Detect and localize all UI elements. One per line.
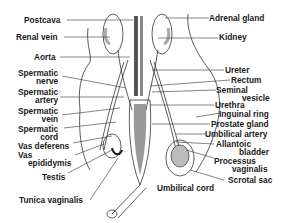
label-spermatic-artery: Spermatic artery <box>18 88 58 104</box>
label-line: epididymis <box>18 159 71 167</box>
label-renal-vein: Renal vein <box>16 33 58 41</box>
label-line: cord <box>18 133 58 141</box>
label-vas-epididymis: Vas epididymis <box>18 151 71 167</box>
label-vas-deferens: Vas deferens <box>18 142 69 150</box>
label-line: vaginalis <box>214 165 268 173</box>
urogenital-diagram: Postcava Renal vein Aorta Spermatic nerv… <box>0 0 286 223</box>
label-processus-vaginalis: Processus vaginalis <box>214 157 268 173</box>
label-adrenal-gland: Adrenal gland <box>209 14 264 22</box>
label-line: bladder <box>216 148 269 156</box>
label-urethra: Urethra <box>215 101 245 109</box>
label-testis: Testis <box>42 173 65 181</box>
label-spermatic-nerve: Spermatic nerve <box>18 69 58 85</box>
label-prostate-gland: Prostate gland <box>211 120 269 128</box>
label-postcava: Postcava <box>24 16 60 24</box>
label-allantoic-bladder: Allantoic bladder <box>216 140 269 156</box>
label-line: artery <box>18 96 58 104</box>
label-ureter: Ureter <box>225 66 249 74</box>
label-umbilical-cord: Umbilical cord <box>157 184 214 192</box>
label-spermatic-vein: Spermatic vein <box>18 107 58 123</box>
label-line: nerve <box>18 77 58 85</box>
label-inguinal-ring: Inguinal ring <box>219 110 269 118</box>
label-umbilical-artery: Umbilical artery <box>205 130 267 138</box>
label-line: vein <box>18 115 58 123</box>
label-kidney: Kidney <box>219 33 247 41</box>
label-aorta: Aorta <box>34 53 56 61</box>
label-scrotal-sac: Scrotal sac <box>228 176 272 184</box>
label-rectum: Rectum <box>231 76 261 84</box>
label-spermatic-cord: Spermatic cord <box>18 125 58 141</box>
label-tunica-vaginalis: Tunica vaginalis <box>19 196 83 204</box>
